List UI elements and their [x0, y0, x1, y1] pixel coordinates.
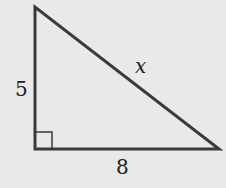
bottom-leg-label: 8: [116, 157, 129, 177]
left-leg-label: 5: [15, 79, 28, 99]
hypotenuse-label: x: [135, 56, 146, 76]
right-angle-marker: [35, 132, 52, 149]
right-triangle: [35, 7, 219, 149]
triangle-diagram: [0, 0, 226, 188]
